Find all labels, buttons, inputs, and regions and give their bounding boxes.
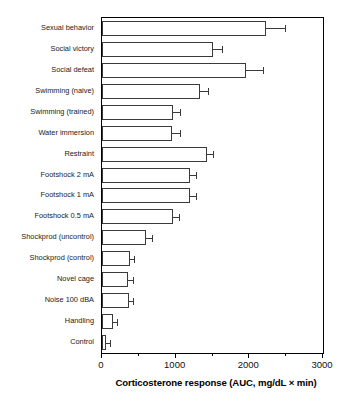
caption-stub: [10, 398, 130, 405]
bar: [102, 272, 128, 287]
x-tick-minor: [212, 353, 213, 356]
error-bar-cap: [133, 277, 134, 284]
x-tick-major: [322, 353, 323, 358]
bar: [102, 21, 266, 36]
error-bar-cap: [208, 88, 209, 95]
category-label: Shockprod (uncontrol): [0, 232, 94, 241]
bar: [102, 230, 146, 245]
error-bar-cap: [222, 46, 223, 53]
category-label: Swimming (naive): [0, 86, 94, 95]
category-label: Shockprod (control): [0, 253, 94, 262]
plot-frame: [101, 17, 324, 354]
bar: [102, 293, 129, 308]
error-bar-cap: [133, 298, 134, 305]
bar: [102, 42, 213, 57]
error-bar-cap: [179, 214, 180, 221]
error-bar-cap: [152, 235, 153, 242]
bar: [102, 147, 207, 162]
error-bar-cap: [213, 151, 214, 158]
category-label: Noise 100 dBA: [0, 295, 94, 304]
error-bar-line: [200, 91, 208, 92]
error-bar-line: [213, 49, 223, 50]
error-bar-cap: [263, 67, 264, 74]
bar: [102, 63, 246, 78]
category-label: Handling: [0, 316, 94, 325]
category-label: Sexual behavior: [0, 23, 94, 32]
error-bar-cap: [285, 25, 286, 32]
x-tick-label: 0: [81, 359, 121, 370]
error-bar-cap: [117, 319, 118, 326]
x-tick-major: [248, 353, 249, 358]
category-label: Footshock 0.5 mA: [0, 211, 94, 220]
error-bar-cap: [110, 340, 111, 347]
category-label: Social defeat: [0, 65, 94, 74]
category-label: Control: [0, 337, 94, 346]
bar-chart-figure: Sexual behaviorSocial victorySocial defe…: [0, 0, 350, 406]
error-bar-cap: [134, 256, 135, 263]
bar: [102, 251, 130, 266]
error-bar-cap: [180, 130, 181, 137]
error-bar-line: [190, 196, 197, 197]
x-tick-label: 3000: [302, 359, 342, 370]
x-tick-major: [175, 353, 176, 358]
bar: [102, 314, 113, 329]
error-bar-line: [172, 133, 179, 134]
x-tick-label: 1000: [155, 359, 195, 370]
x-tick-minor: [285, 353, 286, 356]
category-label: Footshock 2 mA: [0, 170, 94, 179]
bar: [102, 84, 200, 99]
category-label: Swimming (trained): [0, 107, 94, 116]
x-tick-minor: [138, 353, 139, 356]
category-label: Water immersion: [0, 128, 94, 137]
category-label: Restraint: [0, 149, 94, 158]
bar: [102, 168, 190, 183]
error-bar-line: [266, 28, 285, 29]
error-bar-cap: [180, 109, 181, 116]
bar: [102, 126, 172, 141]
category-label: Social victory: [0, 44, 94, 53]
error-bar-line: [246, 70, 263, 71]
category-label: Novel cage: [0, 274, 94, 283]
bar: [102, 209, 173, 224]
bar: [102, 105, 173, 120]
x-tick-label: 2000: [228, 359, 268, 370]
x-axis-title: Corticosterone response (AUC, mg/dL × mi…: [96, 377, 336, 388]
bar: [102, 188, 190, 203]
category-label: Footshock 1 mA: [0, 190, 94, 199]
category-axis-labels: Sexual behaviorSocial victorySocial defe…: [0, 17, 98, 352]
error-bar-line: [173, 112, 180, 113]
error-bar-cap: [196, 172, 197, 179]
x-tick-major: [101, 353, 102, 358]
plot-area: [102, 18, 323, 353]
error-bar-cap: [196, 193, 197, 200]
